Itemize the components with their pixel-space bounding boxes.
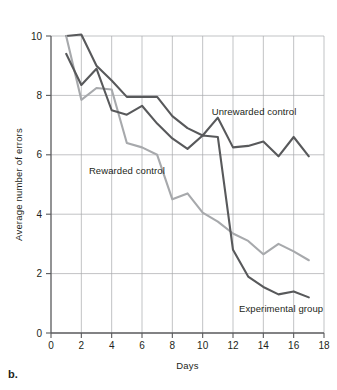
figure-panel-b: 0246810121416180246810 Unrewarded contro…: [0, 0, 337, 390]
y-axis-tick-label: 0: [36, 328, 42, 339]
axis-lines: [51, 36, 324, 333]
y-axis-tick-label: 4: [36, 209, 42, 220]
series-label: Rewarded control: [89, 165, 165, 176]
series-label: Experimental group: [239, 303, 323, 314]
x-axis-tick-label: 12: [227, 340, 239, 351]
x-axis-tick-label: 2: [79, 340, 85, 351]
x-axis-title: Days: [176, 360, 198, 371]
x-axis-tick-label: 0: [48, 340, 54, 351]
x-axis-tick-label: 14: [258, 340, 270, 351]
y-axis-tick-label: 2: [36, 268, 42, 279]
x-axis-tick-label: 4: [109, 340, 115, 351]
panel-caption: b.: [8, 368, 18, 380]
x-axis-tick-label: 6: [139, 340, 145, 351]
x-axis-tick-label: 8: [170, 340, 176, 351]
grid-lines: [51, 36, 324, 333]
y-axis-tick-label: 8: [36, 90, 42, 101]
y-axis-tick-label: 6: [36, 149, 42, 160]
x-axis-tick-label: 18: [318, 340, 330, 351]
line-chart: 0246810121416180246810 Unrewarded contro…: [0, 0, 337, 390]
x-axis-tick-label: 10: [197, 340, 209, 351]
x-axis-tick-label: 16: [288, 340, 300, 351]
y-axis-tick-label: 10: [31, 31, 43, 42]
series-label: Unrewarded control: [212, 106, 297, 117]
y-axis-title: Average number of errors: [13, 128, 24, 241]
